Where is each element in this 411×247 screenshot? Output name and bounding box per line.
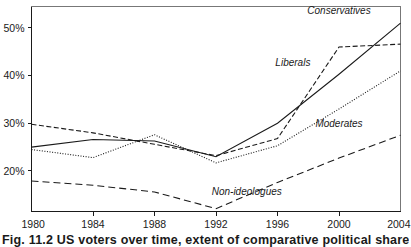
- y-tick-label: 30%: [3, 117, 24, 129]
- x-tick-label: 1980: [22, 218, 46, 230]
- y-tick-label: 40%: [3, 69, 24, 81]
- series-label-moderates: Moderates: [315, 118, 362, 129]
- series-line-conservatives: [32, 23, 401, 156]
- x-tick-label: 2004: [387, 218, 411, 230]
- x-axis-tick-labels: 1980198419881992199620002004: [22, 218, 411, 230]
- series-line-moderates: [32, 71, 401, 163]
- x-tick-label: 2000: [327, 218, 351, 230]
- series-line-non-ideologues: [32, 135, 401, 208]
- x-tick-label: 1984: [81, 218, 105, 230]
- axis-ticks: [28, 28, 340, 216]
- series-label-non-ideologues: Non-ideologues: [212, 186, 282, 197]
- series-annotations: ConservativesLiberalsModeratesNon-ideolo…: [212, 5, 371, 197]
- plot-frame: [32, 7, 401, 212]
- series-line-liberals: [32, 44, 401, 156]
- series-lines: [32, 23, 401, 208]
- plot-border: [32, 7, 401, 212]
- y-tick-label: 20%: [3, 165, 24, 177]
- x-tick-label: 1992: [204, 218, 228, 230]
- series-label-liberals: Liberals: [275, 57, 310, 68]
- x-tick-label: 1996: [266, 218, 290, 230]
- y-tick-label: 50%: [3, 22, 24, 34]
- figure-caption: Fig. 11.2 US voters over time, extent of…: [2, 233, 409, 247]
- x-tick-label: 1988: [143, 218, 167, 230]
- series-label-conservatives: Conservatives: [307, 5, 370, 16]
- y-axis-tick-labels: 20%30%40%50%: [3, 22, 24, 177]
